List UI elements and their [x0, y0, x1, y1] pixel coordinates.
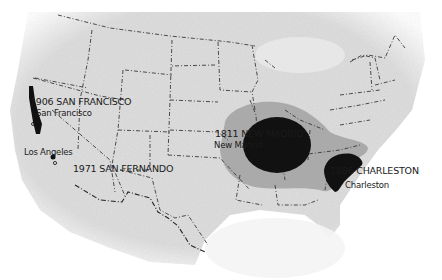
label-city-san-francisco: San Francisco — [36, 109, 92, 118]
label-1906-san-francisco: 1906 SAN FRANCISCO — [30, 97, 131, 107]
label-city-los-angeles: Los Angeles — [24, 148, 73, 157]
label-1886-charleston: 1886 CHARLESTON — [330, 166, 419, 176]
earthquake-map: 1906 SAN FRANCISCO San Francisco Los Ang… — [0, 0, 442, 280]
label-1811-new-madrid: 1811 NEW MADRID — [215, 129, 303, 139]
label-1971-san-fernando: 1971 SAN FERNANDO — [73, 164, 173, 174]
label-city-new-madrid: New Madrid — [214, 141, 262, 150]
label-city-charleston: Charleston — [345, 181, 389, 190]
